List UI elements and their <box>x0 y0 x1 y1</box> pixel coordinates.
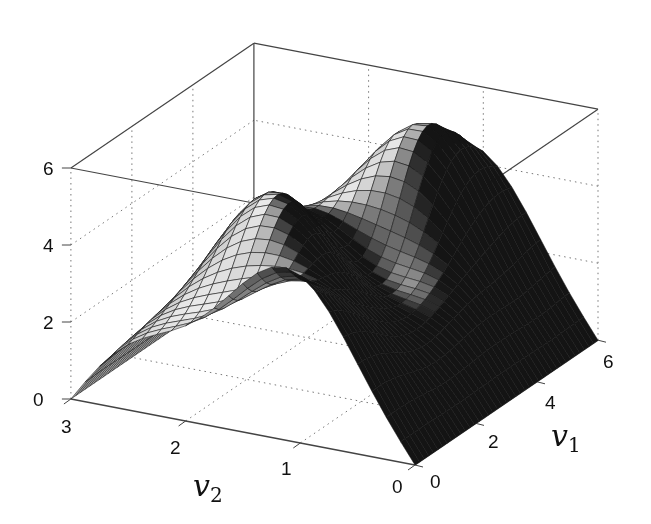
v2-axis-label: v2 <box>193 471 223 505</box>
v2-tick-3: 3 <box>61 417 72 436</box>
v2-tick-0: 0 <box>392 477 403 496</box>
v1-tick-4: 4 <box>545 393 556 412</box>
v1-axis-label: v1 <box>551 421 581 455</box>
v1-tick-2: 2 <box>488 432 499 451</box>
v2-tick-2: 2 <box>170 438 181 457</box>
z-tick-4: 4 <box>43 236 54 255</box>
z-tick-0: 0 <box>33 390 44 409</box>
v2-tick-1: 1 <box>281 459 292 478</box>
z-tick-2: 2 <box>43 313 54 332</box>
z-tick-6: 6 <box>43 159 54 178</box>
v1-tick-6: 6 <box>603 352 614 371</box>
v1-tick-0: 0 <box>430 472 441 491</box>
